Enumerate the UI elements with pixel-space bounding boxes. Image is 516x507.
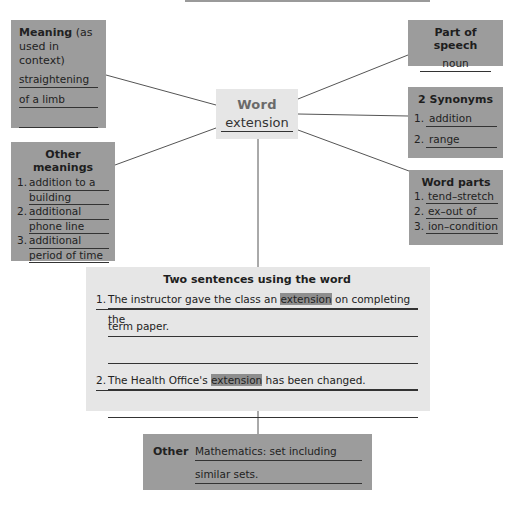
word-part-item: 3.ion–condition — [414, 219, 498, 234]
sentence-1-continued: term paper. — [108, 316, 418, 337]
other-meanings-box: Other meanings 1.addition to abuilding 2… — [11, 142, 115, 261]
other-meaning-item: 1.addition to abuilding — [17, 176, 109, 205]
word-part-item: 2.ex–out of — [414, 204, 498, 219]
synonyms-title: 2 Synonyms — [414, 93, 497, 106]
word-part-item: 1.tend–stretch — [414, 189, 498, 204]
word-parts-title: Word parts — [414, 176, 498, 189]
part-of-speech-box: Part of speech noun — [408, 20, 503, 66]
other-label: Other — [153, 442, 195, 482]
meaning-line-3 — [19, 111, 98, 128]
highlighted-word: extension — [211, 374, 262, 386]
center-word: extension — [221, 115, 292, 132]
other-line-1: Mathematics: set including — [195, 442, 362, 461]
meaning-box: Meaning (as used in context) straighteni… — [11, 20, 106, 128]
other-meanings-title: Other meanings — [17, 148, 109, 174]
other-meaning-item: 3.additionalperiod of time — [17, 234, 109, 263]
sentences-title: Two sentences using the word — [96, 273, 418, 286]
synonym-item: 2.range — [414, 131, 497, 148]
blank-line — [108, 397, 418, 418]
sentence-2: 2. The Health Office's extension has bee… — [96, 370, 418, 391]
highlighted-word: extension — [280, 293, 331, 305]
other-meaning-item: 2.additionalphone line — [17, 205, 109, 234]
synonyms-box: 2 Synonyms 1.addition 2.range — [408, 87, 503, 158]
part-of-speech-value: noun — [420, 55, 491, 72]
center-label: Word — [216, 97, 298, 112]
word-parts-box: Word parts 1.tend–stretch 2.ex–out of 3.… — [409, 170, 503, 245]
sentence-1: 1. The instructor gave the class an exte… — [96, 289, 418, 310]
sentences-box: Two sentences using the word 1. The inst… — [86, 267, 430, 411]
part-of-speech-title: Part of speech — [414, 26, 497, 52]
other-box: Other Mathematics: set including similar… — [143, 434, 372, 490]
center-word-box: Word extension — [216, 89, 298, 139]
other-line-2: similar sets. — [195, 465, 362, 484]
meaning-line-2: of a limb — [19, 91, 98, 108]
meaning-line-1: straightening — [19, 71, 98, 88]
synonym-item: 1.addition — [414, 110, 497, 127]
meaning-title: Meaning (as used in context) — [19, 26, 98, 68]
blank-line — [108, 343, 418, 364]
